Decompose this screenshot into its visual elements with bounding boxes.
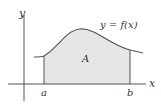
area-under-curve-diagram: y x y = f(x) A a b <box>0 0 161 107</box>
bound-label-a: a <box>41 87 47 98</box>
bound-label-b: b <box>127 87 133 98</box>
region-label: A <box>81 53 89 64</box>
y-axis-label: y <box>18 7 26 20</box>
x-axis-label: x <box>149 77 156 90</box>
curve-label: y = f(x) <box>99 19 138 30</box>
